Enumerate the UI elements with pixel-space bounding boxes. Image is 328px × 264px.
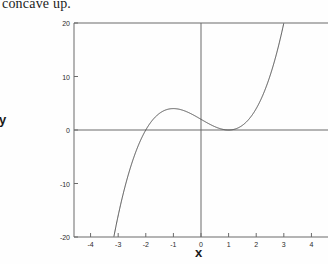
x-tick-label: -1 xyxy=(170,241,176,248)
x-tick-label: 4 xyxy=(309,241,313,248)
y-tick-label: 0 xyxy=(44,127,70,134)
y-tick-label: -10 xyxy=(44,180,70,187)
y-tick-label: 10 xyxy=(44,73,70,80)
x-tick-label: -4 xyxy=(87,241,93,248)
y-tick-label: -20 xyxy=(44,234,70,241)
x-tick-label: 0 xyxy=(199,241,203,248)
x-tick-label: -3 xyxy=(115,241,121,248)
x-tick-label: -2 xyxy=(143,241,149,248)
y-tick-label: 20 xyxy=(44,20,70,27)
x-tick-label: 1 xyxy=(227,241,231,248)
textbook-figure-page: concave up. y x -20-1001020-4-3-2-101234 xyxy=(0,0,328,264)
plot-frame xyxy=(74,23,328,237)
x-tick-label: 3 xyxy=(282,241,286,248)
x-tick-label: 2 xyxy=(254,241,258,248)
